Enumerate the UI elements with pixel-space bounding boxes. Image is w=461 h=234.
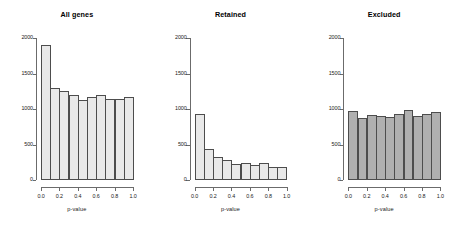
- y-axis-tick: [340, 74, 344, 75]
- x-axis-tick: [41, 187, 42, 191]
- plot-area: [348, 38, 440, 180]
- y-axis-tick-label: 2000: [308, 35, 340, 40]
- y-axis-tick: [340, 109, 344, 110]
- histogram-figure: All genes05001000150020000.00.20.40.60.8…: [0, 0, 461, 234]
- y-axis-tick: [340, 145, 344, 146]
- chart-panel: All genes05001000150020000.00.20.40.60.8…: [0, 0, 154, 234]
- y-axis-tick-label: 1500: [1, 71, 33, 76]
- x-axis-tick: [440, 187, 441, 191]
- y-axis-tick-label: 0: [308, 177, 340, 182]
- x-axis-tick: [287, 187, 288, 191]
- x-axis-tick: [133, 187, 134, 191]
- plot-area: [41, 38, 133, 180]
- chart-panel: Excluded05001000150020000.00.20.40.60.81…: [307, 0, 461, 234]
- x-axis-tick: [96, 187, 97, 191]
- plot-area: [195, 38, 287, 180]
- y-axis-tick-label: 500: [308, 142, 340, 147]
- x-axis-tick-label: 1.0: [276, 193, 298, 199]
- y-axis-tick-label: 1000: [308, 106, 340, 111]
- histogram-bar: [124, 97, 134, 180]
- y-axis-tick: [33, 109, 37, 110]
- x-axis-tick: [115, 187, 116, 191]
- chart-panel: Retained05001000150020000.00.20.40.60.81…: [154, 0, 308, 234]
- x-axis-line: [195, 187, 287, 188]
- y-axis-tick-label: 1000: [155, 106, 187, 111]
- x-axis-tick: [231, 187, 232, 191]
- x-axis-tick: [367, 187, 368, 191]
- x-axis-title: p-value: [154, 206, 308, 212]
- x-axis-tick-label: 1.0: [429, 193, 451, 199]
- panel-title: Retained: [154, 10, 308, 19]
- histogram-bar: [431, 112, 441, 181]
- x-axis-line: [348, 187, 440, 188]
- x-axis-tick: [213, 187, 214, 191]
- x-axis-tick: [348, 187, 349, 191]
- y-axis-tick-label: 1000: [1, 106, 33, 111]
- x-axis-tick: [195, 187, 196, 191]
- x-axis-title: p-value: [307, 206, 461, 212]
- panel-title: All genes: [0, 10, 154, 19]
- y-axis-tick: [340, 38, 344, 39]
- y-axis-tick: [33, 145, 37, 146]
- bar-series: [195, 38, 287, 180]
- panel-title: Excluded: [307, 10, 461, 19]
- x-axis-tick: [422, 187, 423, 191]
- y-axis-tick: [340, 180, 344, 181]
- y-axis-line: [190, 38, 191, 180]
- y-axis-line: [36, 38, 37, 180]
- x-axis-tick: [59, 187, 60, 191]
- x-axis-tick-label: 1.0: [122, 193, 144, 199]
- x-axis-title: p-value: [0, 206, 154, 212]
- y-axis-tick-label: 500: [1, 142, 33, 147]
- x-axis-tick: [404, 187, 405, 191]
- y-axis-tick: [33, 180, 37, 181]
- x-axis-tick: [78, 187, 79, 191]
- y-axis-tick: [33, 38, 37, 39]
- y-axis-tick-label: 1500: [308, 71, 340, 76]
- x-axis-tick: [250, 187, 251, 191]
- bar-series: [41, 38, 133, 180]
- y-axis-tick: [33, 74, 37, 75]
- y-axis-tick-label: 0: [155, 177, 187, 182]
- histogram-bar: [277, 167, 287, 180]
- y-axis-tick-label: 0: [1, 177, 33, 182]
- bar-series: [348, 38, 440, 180]
- y-axis-tick-label: 2000: [155, 35, 187, 40]
- y-axis-line: [343, 38, 344, 180]
- y-axis-tick-label: 1500: [155, 71, 187, 76]
- x-axis-line: [41, 187, 133, 188]
- x-axis-tick: [385, 187, 386, 191]
- y-axis-tick-label: 500: [155, 142, 187, 147]
- x-axis-tick: [268, 187, 269, 191]
- y-axis-tick-label: 2000: [1, 35, 33, 40]
